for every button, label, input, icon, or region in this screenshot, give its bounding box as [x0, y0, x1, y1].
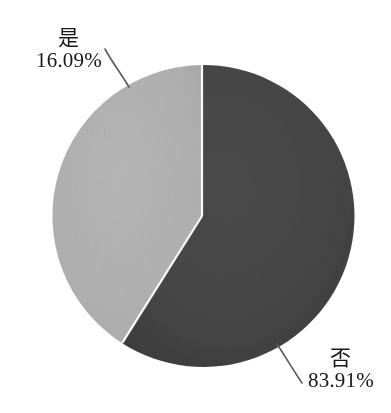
pie-label-no-category: 否: [286, 347, 391, 369]
pie-label-yes: 是 16.09%: [13, 27, 125, 71]
pie-label-no: 否 83.91%: [286, 347, 391, 391]
pie-chart: 是 16.09% 否 83.91%: [0, 0, 391, 413]
pie-label-yes-category: 是: [13, 27, 125, 49]
pie-label-no-percent: 83.91%: [286, 369, 391, 391]
pie-label-yes-percent: 16.09%: [13, 49, 125, 71]
